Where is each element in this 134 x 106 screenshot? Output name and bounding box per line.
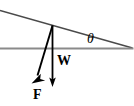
force-vector-shaft — [38, 26, 53, 76]
force-vector-label: F — [33, 88, 42, 102]
incline-line — [0, 11, 133, 49]
free-body-diagram: W F θ — [0, 0, 134, 106]
weight-vector-label: W — [57, 54, 71, 68]
angle-label-theta: θ — [87, 32, 94, 46]
